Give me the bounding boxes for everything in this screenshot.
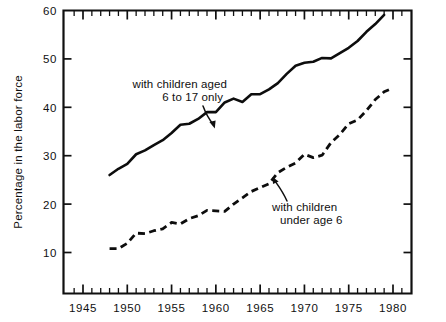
y-tick-label: 10 [43,247,57,259]
y-axis-ticks [64,59,72,253]
y-tick-label: 60 [43,5,57,17]
annotation-arrowhead [209,121,215,129]
axis-frame [64,11,412,294]
x-tick-label: 1960 [202,302,230,314]
y-axis-right-ticks [404,59,412,253]
y-axis-tick-labels: 60 50 40 30 20 10 [43,5,57,259]
chart-figure: 60 50 40 30 20 10 1945195019551960196519… [0,0,446,322]
annotation-leader-line [275,181,287,201]
series-line-children-6-to-17 [110,15,385,175]
annotation-children-6-to-17: with children aged 6 to 17 only [132,78,228,129]
x-tick-label: 1970 [290,302,318,314]
x-tick-label: 1975 [335,302,363,314]
x-tick-label: 1955 [158,302,186,314]
x-tick-label: 1945 [69,302,97,314]
line-chart-canvas: 60 50 40 30 20 10 1945195019551960196519… [0,0,446,322]
x-axis-ticks [74,285,402,294]
x-tick-label: 1980 [379,302,407,314]
annotation-line-2: 6 to 17 only [162,91,223,103]
y-tick-label: 20 [43,199,57,211]
series-line-children-under-6 [110,88,393,249]
annotation-line-1: with children [271,201,337,213]
y-tick-label: 30 [43,150,57,162]
x-tick-label: 1950 [113,302,141,314]
annotation-line-2: under age 6 [280,214,343,226]
x-tick-label: 1965 [246,302,274,314]
annotation-line-1: with children aged [132,78,228,90]
x-axis-top-ticks [74,11,402,20]
annotation-children-under-6: with children under age 6 [271,177,343,226]
x-axis-tick-labels: 19451950195519601965197019751980 [69,302,407,314]
y-tick-label: 50 [43,53,57,65]
y-axis-title: Percentage in the labor force [12,75,24,228]
y-tick-label: 40 [43,102,57,114]
